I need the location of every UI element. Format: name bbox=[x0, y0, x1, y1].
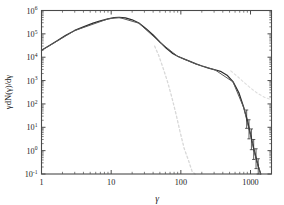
y-tick-label: 102 bbox=[27, 99, 38, 109]
series-0 bbox=[42, 17, 261, 174]
x-tick-labels: 1101001000 bbox=[39, 178, 258, 187]
data-series-layer bbox=[42, 17, 272, 174]
y-axis-title: γdN(γ)/dγ bbox=[3, 75, 13, 111]
figure-container: 1101001000 10-1100101102103104105106 γ γ… bbox=[0, 0, 284, 205]
y-tick-labels: 10-1100101102103104105106 bbox=[25, 5, 38, 179]
y-tick-label: 101 bbox=[27, 122, 38, 132]
x-tick-label: 100 bbox=[175, 178, 187, 187]
y-tick-label: 10-1 bbox=[25, 169, 38, 179]
x-axis-title: γ bbox=[155, 194, 159, 204]
y-tick-label: 105 bbox=[27, 29, 38, 39]
y-tick-label: 100 bbox=[27, 145, 38, 155]
x-tick-label: 10 bbox=[107, 178, 115, 187]
y-tick-label: 106 bbox=[27, 5, 38, 15]
x-tick-label: 1 bbox=[39, 178, 43, 187]
series-2 bbox=[155, 46, 195, 174]
y-tick-label: 104 bbox=[27, 52, 38, 62]
x-tick-label: 1000 bbox=[242, 178, 258, 187]
series-1 bbox=[42, 17, 261, 174]
spectrum-plot: 1101001000 10-1100101102103104105106 γ γ… bbox=[0, 0, 284, 205]
series-3 bbox=[231, 71, 272, 100]
y-tick-label: 103 bbox=[27, 75, 38, 85]
